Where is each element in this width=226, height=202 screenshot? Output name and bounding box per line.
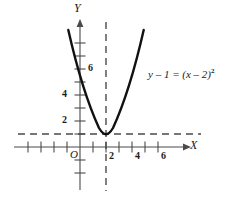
- origin-label: O: [70, 149, 78, 160]
- equation-text: y – 1 = (x – 2): [148, 68, 211, 80]
- equation-label: y – 1 = (x – 2)2: [148, 68, 215, 80]
- equation-exponent: 2: [211, 67, 215, 75]
- y-tick-label-2: 2: [62, 115, 67, 125]
- x-tick-label-4: 4: [135, 151, 140, 161]
- y-tick-label-4: 4: [62, 89, 67, 99]
- y-tick-label-6: 6: [88, 63, 93, 73]
- figure-parabola-plot: X Y O 2 4 6 2 4 6 y – 1 = (x – 2)2: [0, 0, 226, 202]
- x-tick-label-6: 6: [161, 151, 166, 161]
- y-axis-label: Y: [74, 2, 81, 14]
- x-tick-label-2: 2: [109, 151, 114, 161]
- plot-canvas: [0, 0, 226, 202]
- y-axis: [77, 19, 84, 190]
- x-axis-label: X: [190, 139, 197, 151]
